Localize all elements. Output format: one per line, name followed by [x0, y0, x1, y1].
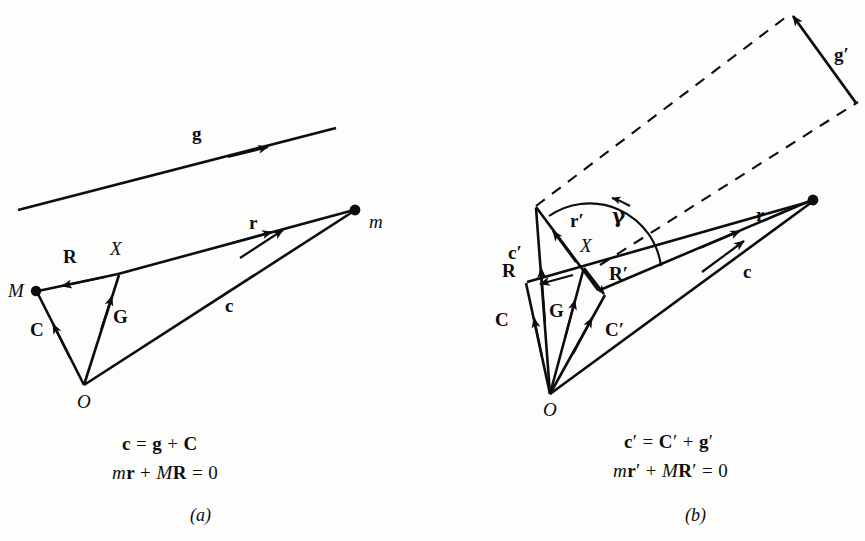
- panel-b-angle-arc-gamma: [549, 198, 661, 266]
- panel-b-label-r: r: [756, 205, 764, 224]
- panel-a-label-g: g: [192, 124, 202, 143]
- vector-diagram-svg: [0, 0, 865, 541]
- panel-b-label-R: R: [502, 261, 516, 280]
- panel-b-equation-2: mr′ + MR′ = 0: [613, 461, 728, 480]
- panel-b-label-gamma: γ: [612, 206, 625, 226]
- panel-b-label-R-prime: R′: [609, 264, 628, 283]
- panel-b-equation-1: c′ = C′ + g′: [624, 432, 713, 451]
- panel-a-vector-R: [38, 274, 118, 291]
- panel-a-label-m: m: [369, 212, 383, 231]
- panel-b-label-r-prime: r′: [570, 211, 584, 230]
- panel-a-equation-2: mr + MR = 0: [112, 463, 218, 482]
- panel-b-point-m-dot: [808, 195, 819, 206]
- panel-b-label-X: X: [580, 236, 592, 255]
- panel-a-label-M: M: [8, 281, 24, 300]
- panel-a-label-r: r: [249, 213, 257, 232]
- figure-container: g r R C G c M X O m g′ r r′ γ c′ R R′ C …: [0, 0, 865, 541]
- panel-a-label-X: X: [110, 239, 122, 258]
- panel-b-label-G: G: [549, 301, 564, 320]
- panel-a-label-c: c: [225, 296, 233, 315]
- panel-b-caption: (b): [685, 506, 706, 524]
- panel-a-equation-1: c = g + C: [122, 434, 198, 453]
- panel-b-vector-r: [600, 200, 812, 290]
- panel-b-vector-G: [550, 271, 583, 394]
- panel-b-label-g-prime: g′: [834, 45, 849, 64]
- panel-a-vector-g: [18, 128, 336, 210]
- panel-b-dashed-guide-upper: [536, 14, 790, 206]
- panel-a-vector-r: [118, 210, 354, 274]
- panel-a-vector-G: [84, 275, 119, 385]
- panel-b-vector-c: [550, 202, 812, 394]
- panel-a-point-M-dot: [31, 286, 41, 296]
- panel-a-label-C: C: [30, 320, 44, 339]
- panel-b-label-C-prime: C′: [605, 320, 624, 339]
- panel-b-dashed-guide-lower: [600, 102, 858, 265]
- panel-a-vector-c: [84, 211, 354, 385]
- panel-a-label-O: O: [77, 392, 91, 411]
- panel-a-point-m-dot: [350, 205, 361, 216]
- panel-b-label-C: C: [495, 310, 509, 329]
- panel-a-vector-C: [37, 292, 84, 385]
- panel-a-label-R: R: [63, 247, 77, 266]
- panel-b-label-c: c: [743, 262, 751, 281]
- panel-a-label-G: G: [113, 307, 128, 326]
- panel-b-label-O: O: [543, 400, 557, 419]
- panel-a-caption: (a): [190, 506, 211, 524]
